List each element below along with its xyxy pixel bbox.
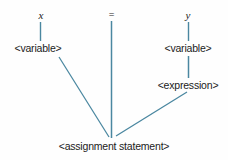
edge-variable-left-to-assignment-statement: [59, 57, 109, 137]
nonterminal-variable-right: <variable>: [164, 43, 211, 54]
terminal-equals-label: =: [109, 10, 115, 20]
parse-tree-diagram: x = y <variable> <variable> <expression>…: [0, 0, 228, 160]
terminal-y-label: y: [186, 10, 191, 21]
nonterminal-expression: <expression>: [158, 80, 219, 91]
terminal-x-label: x: [39, 10, 44, 21]
edge-expression-to-assignment-statement: [116, 92, 187, 136]
nonterminal-assignment-statement: <assignment statement>: [59, 141, 170, 152]
nonterminal-variable-left: <variable>: [14, 43, 61, 54]
